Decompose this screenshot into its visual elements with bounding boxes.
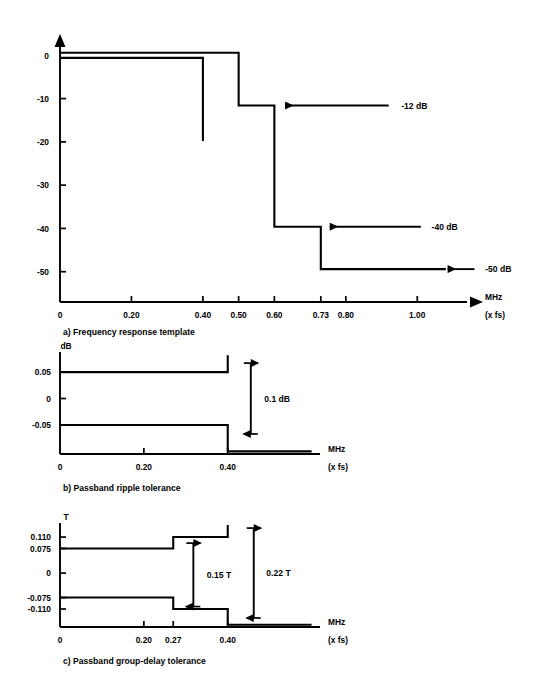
tolerance-curve-upper-delay: [60, 525, 228, 549]
y-tick-label-b-1: 0: [46, 394, 51, 404]
x-tick-label-b-2: 0.40: [220, 462, 237, 472]
x-tick-label-a-2: 0.40: [195, 310, 212, 320]
y-axis-arrowhead-a: [55, 34, 66, 47]
x-tick-label-c-1: 0.20: [136, 635, 153, 645]
annotation-label-a-0: -12 dB: [401, 101, 427, 111]
x-tick-label-a-3: 0.50: [230, 310, 247, 320]
x-axis-unit-a: MHz: [485, 292, 502, 302]
y-tick-label-c-0: 0.110: [31, 532, 52, 542]
chart-passband-group-delay-tolerance: 0.1100.0750-0.075-0.11000.200.270.400.15…: [27, 512, 348, 666]
x-tick-label-b-1: 0.20: [136, 462, 153, 472]
y-tick-label-a-0: 0: [44, 51, 49, 61]
y-tick-label-a-2: -20: [37, 137, 49, 147]
annotation-label-b-0: 0.1 dB: [264, 394, 290, 404]
x-tick-label-a-1: 0.20: [123, 310, 140, 320]
y-tick-label-c-1: 0.075: [30, 544, 51, 554]
x-tick-label-c-3: 0.40: [220, 635, 237, 645]
figure-container: 0-10-20-30-40-5000.200.400.500.600.730.8…: [0, 0, 535, 676]
x-axis-unit-b: MHz: [328, 444, 345, 454]
y-tick-label-a-1: -10: [37, 94, 49, 104]
x-axis-unit-c: MHz: [328, 617, 345, 627]
annotation-label-c-0: 0.15 T: [207, 570, 232, 580]
x-axis-unit-sub-b: (x fs): [328, 462, 348, 472]
tolerance-curve-upper-ripple: [60, 355, 228, 372]
y-tick-label-c-3: -0.075: [27, 593, 51, 603]
x-axis-unit-sub-c: (x fs): [328, 635, 348, 645]
x-axis-arrowhead-a: [470, 297, 483, 308]
annotation-label-c-1: 0.22 T: [266, 568, 291, 578]
y-axis-unit-b: dB: [60, 341, 71, 351]
y-tick-label-a-4: -40: [37, 224, 49, 234]
filter-template-figure: 0-10-20-30-40-5000.200.400.500.600.730.8…: [0, 0, 535, 676]
caption-b: b) Passband ripple tolerance: [63, 483, 181, 493]
caption-a: a) Frequency response template: [63, 327, 195, 337]
annotation-label-a-1: -40 dB: [432, 222, 458, 232]
chart-frequency-response-template: 0-10-20-30-40-5000.200.400.500.600.730.8…: [37, 34, 512, 337]
y-tick-label-b-0: 0.05: [35, 367, 52, 377]
x-tick-label-c-2: 0.27: [165, 635, 182, 645]
caption-c: c) Passband group-delay tolerance: [63, 656, 206, 666]
y-tick-label-a-3: -30: [37, 180, 49, 190]
y-tick-label-c-4: -0.110: [28, 604, 52, 614]
mask-curve-lower-mask: [60, 58, 203, 141]
x-tick-label-a-5: 0.73: [313, 310, 330, 320]
x-tick-label-a-6: 0.80: [338, 310, 355, 320]
x-tick-label-a-7: 1.00: [409, 310, 426, 320]
y-tick-label-c-2: 0: [46, 568, 51, 578]
x-tick-label-a-4: 0.60: [266, 310, 283, 320]
x-tick-label-a-0: 0: [58, 310, 63, 320]
x-tick-label-c-0: 0: [58, 635, 63, 645]
tolerance-curve-lower-delay: [60, 598, 312, 625]
mask-curve-upper-mask: [60, 53, 446, 269]
x-axis-unit-sub-a: (x fs): [485, 310, 505, 320]
y-tick-label-b-2: -0.05: [32, 420, 51, 430]
y-axis-unit-c: T: [63, 512, 69, 522]
annotation-label-a-2: -50 dB: [485, 264, 511, 274]
x-tick-label-b-0: 0: [58, 462, 63, 472]
tolerance-curve-lower-ripple: [60, 425, 312, 451]
chart-passband-ripple-tolerance: 0.050-0.0500.200.400.1 dBdBMHz(x fs)b) P…: [32, 341, 348, 493]
y-tick-label-a-5: -50: [37, 267, 49, 277]
